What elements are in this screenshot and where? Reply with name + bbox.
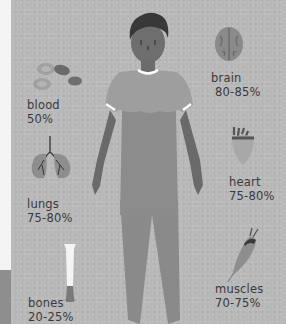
- figure-legs: [120, 200, 180, 324]
- muscles-name: muscles: [215, 282, 263, 296]
- heart-name: heart: [229, 175, 275, 189]
- figure-shirt: [105, 70, 193, 113]
- heart-label: heart 75-80%: [229, 175, 275, 203]
- blood-cells-icon: [33, 63, 82, 90]
- human-figure: [92, 13, 203, 324]
- figure-dress: [120, 110, 178, 215]
- lungs-icon: [32, 136, 71, 178]
- brain-label: brain 80-85%: [211, 71, 261, 99]
- figure-left-arm: [92, 110, 116, 195]
- brain-name: brain: [211, 71, 261, 85]
- illustration: [0, 0, 286, 324]
- muscles-percent: 70-75%: [215, 296, 263, 310]
- heart-percent: 75-80%: [229, 189, 275, 203]
- muscles-label: muscles 70-75%: [215, 282, 263, 310]
- lungs-percent: 75-80%: [27, 211, 73, 225]
- bones-name: bones: [28, 296, 74, 310]
- heart-icon: [232, 127, 254, 165]
- bones-percent: 20-25%: [28, 310, 74, 324]
- blood-label: blood 50%: [27, 98, 60, 126]
- bones-label: bones 20-25%: [28, 296, 74, 324]
- brain-percent: 80-85%: [211, 85, 261, 99]
- lungs-name: lungs: [27, 197, 73, 211]
- blood-percent: 50%: [27, 112, 60, 126]
- brain-icon: [215, 27, 243, 61]
- bone-icon: [64, 244, 76, 302]
- blood-name: blood: [27, 98, 60, 112]
- muscle-icon: [228, 228, 258, 282]
- figure-right-arm: [180, 110, 203, 195]
- lungs-label: lungs 75-80%: [27, 197, 73, 225]
